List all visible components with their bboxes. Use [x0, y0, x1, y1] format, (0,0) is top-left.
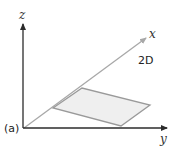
axes-diagram: z x y 2D (a): [0, 0, 179, 153]
plane-parallelogram: [53, 88, 150, 126]
x-axis-label: x: [149, 27, 156, 41]
diagram-canvas: z x y 2D (a): [0, 0, 179, 153]
z-axis-label: z: [18, 8, 26, 22]
y-axis-label: y: [159, 132, 167, 146]
panel-label: (a): [4, 122, 19, 135]
dimension-label: 2D: [138, 54, 153, 67]
